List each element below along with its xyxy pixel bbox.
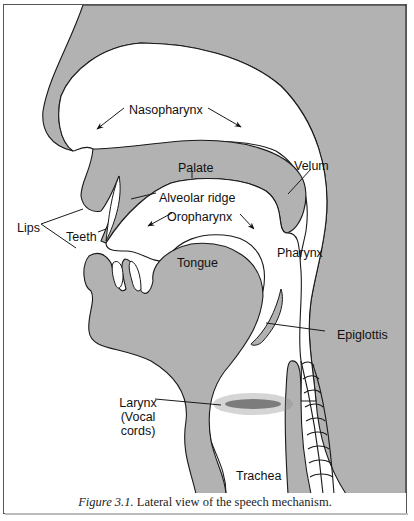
label-larynx-vocal: (Vocal	[118, 410, 158, 424]
caption-figure-number: Figure 3.1.	[78, 495, 133, 509]
frame-shadow	[5, 513, 408, 515]
label-nasopharynx: Nasopharynx	[129, 103, 203, 117]
figure-frame: Nasopharynx Palate Velum Alveolar ridge …	[3, 4, 407, 514]
label-tongue: Tongue	[177, 256, 218, 270]
label-velum: Velum	[294, 159, 329, 173]
label-larynx: Larynx	[118, 396, 158, 410]
label-alveolar-ridge: Alveolar ridge	[159, 191, 235, 205]
label-epiglottis: Epiglottis	[337, 328, 388, 342]
label-oropharynx: Oropharynx	[167, 210, 232, 224]
label-palate: Palate	[178, 161, 213, 175]
label-teeth: Teeth	[66, 230, 97, 244]
caption-text: Lateral view of the speech mechanism.	[134, 495, 332, 509]
label-lips: Lips	[17, 221, 40, 235]
label-trachea: Trachea	[236, 469, 281, 483]
figure-caption: Figure 3.1. Lateral view of the speech m…	[4, 493, 406, 513]
label-larynx-cords: cords)	[118, 424, 158, 438]
vocal-cords-speckle	[213, 393, 293, 415]
label-pharynx: Pharynx	[277, 246, 323, 260]
